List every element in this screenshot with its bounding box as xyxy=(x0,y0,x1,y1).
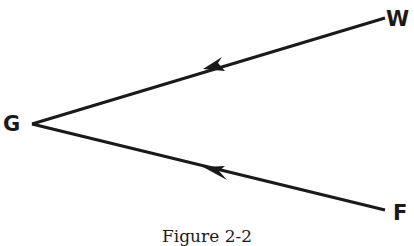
arrowhead-icon xyxy=(203,166,227,180)
node-label-g: G xyxy=(3,114,20,135)
edge-w-to-g xyxy=(32,18,385,124)
figure-caption: Figure 2-2 xyxy=(0,226,414,246)
arrowhead-icon xyxy=(203,57,225,71)
node-label-f: F xyxy=(393,203,407,224)
node-label-w: W xyxy=(386,9,409,30)
